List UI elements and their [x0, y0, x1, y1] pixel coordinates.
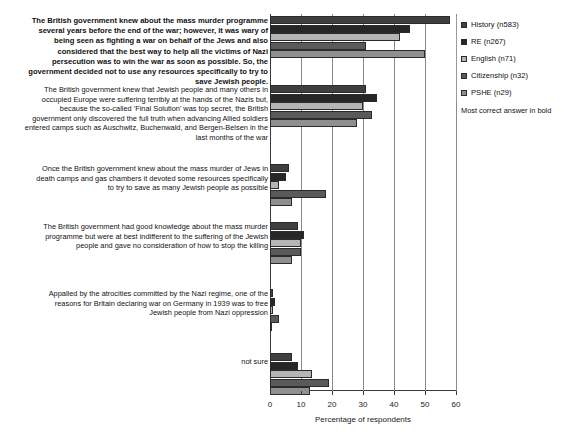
category-label-0: The British government knew about the ma…: [28, 16, 268, 87]
bar-g5-pshe: [270, 387, 310, 395]
bar-g1-english: [270, 102, 363, 110]
legend-item-label: RE (n267): [471, 37, 506, 46]
bar-g3-re: [270, 231, 304, 239]
bar-g0-pshe: [270, 50, 425, 58]
bar-g4-history: [270, 289, 273, 297]
legend-item-citizenship[interactable]: Citizenship (n32): [461, 67, 564, 84]
category-label-1: The British government knew that Jewish …: [22, 85, 268, 143]
legend-swatch-icon: [461, 22, 467, 28]
category-label-4: Appalled by the atrocities committed by …: [38, 289, 268, 318]
tick-mark-60: [456, 391, 457, 395]
gridline-20: [332, 14, 333, 391]
tick-label-0: 0: [268, 400, 272, 409]
bar-g2-re: [270, 173, 286, 181]
legend-item-pshe[interactable]: PSHE (n29): [461, 84, 564, 101]
bar-g4-citizenship: [270, 315, 279, 323]
bar-g2-history: [270, 164, 289, 172]
bar-g1-history: [270, 85, 366, 93]
bar-g5-citizenship: [270, 379, 329, 387]
horizontal-bar-chart: The British government knew about the ma…: [0, 0, 564, 436]
category-label-3: The British government had good knowledg…: [28, 222, 268, 251]
x-axis-title: Percentage of respondents: [270, 415, 456, 424]
tick-label-10: 10: [297, 400, 306, 409]
bar-g1-citizenship: [270, 111, 372, 119]
bar-g2-english: [270, 181, 279, 189]
legend-item-history[interactable]: History (n583): [461, 16, 564, 33]
bar-g2-citizenship: [270, 190, 326, 198]
gridline-10: [301, 14, 302, 391]
tick-mark-30: [363, 391, 364, 395]
category-label-5: not sure: [180, 357, 268, 367]
tick-mark-40: [394, 391, 395, 395]
legend-item-english[interactable]: English (n71): [461, 50, 564, 67]
tick-mark-20: [332, 391, 333, 395]
tick-label-40: 40: [390, 400, 399, 409]
tick-label-50: 50: [421, 400, 430, 409]
bar-g5-history: [270, 353, 292, 361]
bar-g1-pshe: [270, 119, 357, 127]
bar-g4-re: [270, 298, 275, 306]
bar-g5-re: [270, 362, 298, 370]
tick-mark-0: [270, 391, 271, 395]
bar-g0-re: [270, 25, 410, 33]
legend-swatch-icon: [461, 56, 467, 62]
tick-mark-10: [301, 391, 302, 395]
bar-g0-history: [270, 16, 450, 24]
legend-swatch-icon: [461, 90, 467, 96]
legend-item-label: English (n71): [471, 54, 516, 63]
legend-swatch-icon: [461, 73, 467, 79]
legend-note: Most correct answer in bold: [461, 106, 564, 115]
legend: History (n583)RE (n267)English (n71)Citi…: [461, 16, 564, 101]
legend-item-label: History (n583): [471, 20, 519, 29]
legend-item-label: Citizenship (n32): [471, 71, 528, 80]
plot-area: 0102030405060: [270, 14, 456, 391]
gridline-30: [363, 14, 364, 391]
bar-g1-re: [270, 94, 377, 102]
legend-item-label: PSHE (n29): [471, 88, 512, 97]
legend-swatch-icon: [461, 39, 467, 45]
bar-g4-english: [270, 306, 273, 314]
bar-g5-english: [270, 370, 312, 378]
bar-g3-citizenship: [270, 248, 301, 256]
bar-g3-english: [270, 239, 301, 247]
bar-g0-citizenship: [270, 42, 366, 50]
tick-label-60: 60: [452, 400, 461, 409]
bar-g3-history: [270, 222, 298, 230]
legend-divider: [456, 16, 457, 102]
tick-mark-50: [425, 391, 426, 395]
gridline-50: [425, 14, 426, 391]
bar-g0-english: [270, 33, 400, 41]
bar-g4-pshe: [270, 323, 272, 331]
tick-label-20: 20: [328, 400, 337, 409]
category-label-2: Once the British government knew about t…: [30, 164, 268, 193]
tick-label-30: 30: [359, 400, 368, 409]
legend-item-re[interactable]: RE (n267): [461, 33, 564, 50]
bar-g3-pshe: [270, 256, 292, 264]
bar-g2-pshe: [270, 198, 292, 206]
gridline-40: [394, 14, 395, 391]
